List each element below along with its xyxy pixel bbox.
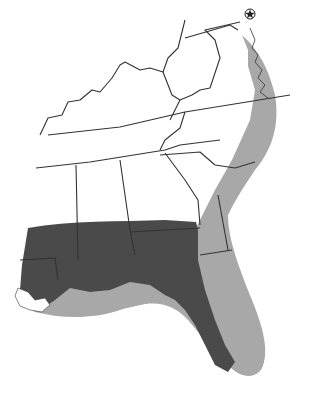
capital-star-icon xyxy=(245,9,255,19)
lake-okeechobee xyxy=(227,325,239,335)
southeast-us-map xyxy=(0,0,318,400)
map-caption xyxy=(10,388,310,400)
